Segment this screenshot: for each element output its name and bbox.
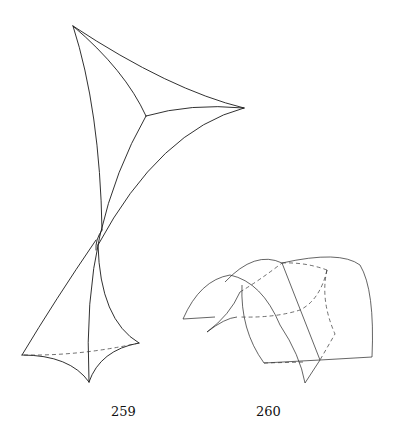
figure-260-drawing bbox=[183, 257, 373, 383]
figure-canvas bbox=[0, 0, 393, 446]
figure-259-drawing bbox=[22, 26, 244, 382]
figure-259-label: 259 bbox=[111, 404, 136, 419]
figure-260-label: 260 bbox=[256, 404, 281, 419]
